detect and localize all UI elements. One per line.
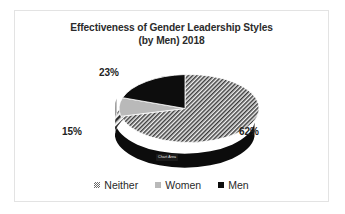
hatch-swatch-icon (94, 182, 100, 188)
data-label-women: 15% (62, 126, 82, 137)
gray-swatch-icon (155, 182, 161, 188)
data-label-neither: 62% (239, 126, 259, 137)
chart-title-line-1: Effectiveness of Gender Leadership Style… (15, 22, 328, 35)
chart-area-tooltip: Chart Area (156, 154, 178, 161)
chart-title-line-2: (by Men) 2018 (15, 35, 328, 48)
legend-item-men[interactable]: Men (218, 179, 248, 191)
legend-label-neither: Neither (104, 179, 138, 191)
legend-item-neither[interactable]: Neither (94, 179, 138, 191)
legend-label-men: Men (228, 179, 248, 191)
chart-legend: Neither Women Men (15, 179, 328, 191)
plot-area: 23% 15% 62% Chart Area (15, 57, 330, 175)
legend-item-women[interactable]: Women (155, 179, 201, 191)
chart-title: Effectiveness of Gender Leadership Style… (15, 22, 328, 47)
black-swatch-icon (218, 182, 224, 188)
data-label-men: 23% (99, 67, 119, 78)
legend-label-women: Women (165, 179, 201, 191)
chart-frame: Effectiveness of Gender Leadership Style… (14, 10, 329, 202)
